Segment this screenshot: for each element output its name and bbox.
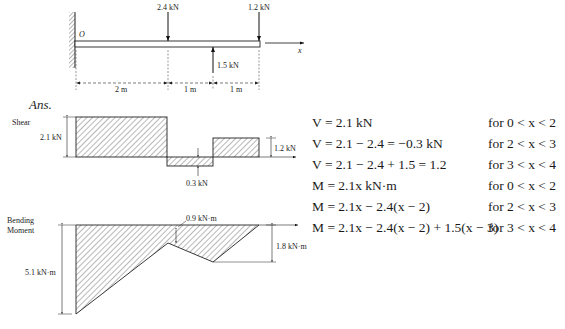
shear-region-0-2: [76, 117, 167, 157]
shear-label-0.3kN: 0.3 kN: [186, 179, 208, 188]
x-axis-label: x: [297, 46, 302, 55]
equation-range: for 2 < x < 3: [488, 199, 556, 215]
origin-label: O: [79, 30, 85, 39]
equation-expression: M = 2.1x − 2.4(x − 2): [312, 199, 488, 215]
equations-list: V = 2.1 kN for 0 < x < 2 V = 2.1 − 2.4 =…: [312, 112, 562, 238]
equation-range: for 0 < x < 2: [488, 115, 556, 131]
equation-range: for 3 < x < 4: [488, 220, 556, 236]
load-label-1.2kN: 1.2 kN: [248, 3, 270, 12]
load-label-1.5kN: 1.5 kN: [217, 61, 239, 70]
equation-expression: V = 2.1 kN: [312, 115, 488, 131]
equation-row: V = 2.1 kN for 0 < x < 2: [312, 112, 562, 133]
equation-row: V = 2.1 − 2.4 + 1.5 = 1.2 for 3 < x < 4: [312, 154, 562, 175]
equation-row: M = 2.1x − 2.4(x − 2) + 1.5(x − 3) for 3…: [312, 217, 562, 238]
fixed-wall-support: [69, 12, 75, 68]
equation-expression: V = 2.1 − 2.4 + 1.5 = 1.2: [312, 157, 488, 173]
beam: [75, 41, 260, 47]
dimension-1m-a: 1 m: [184, 85, 197, 94]
moment-title-line2: Moment: [7, 226, 35, 235]
shear-region-3-4: [213, 138, 259, 157]
equation-expression: M = 2.1x kN·m: [312, 178, 488, 194]
shear-region-2-3: [167, 157, 213, 166]
shear-label-1.2kN: 1.2 kN: [274, 144, 296, 153]
equation-expression: V = 2.1 − 2.4 = −0.3 kN: [312, 136, 488, 152]
shear-title: Shear: [12, 118, 31, 127]
moment-label-5.1kNm: 5.1 kN·m: [25, 268, 56, 277]
moment-label-1.8kNm: 1.8 kN·m: [276, 242, 307, 251]
shear-diagram: Shear 2.1 kN 0.3 kN 1.2 kN: [12, 117, 296, 188]
equation-range: for 2 < x < 3: [488, 136, 556, 152]
shear-label-2.1kN: 2.1 kN: [40, 133, 62, 142]
equation-row: M = 2.1x − 2.4(x − 2) for 2 < x < 3: [312, 196, 562, 217]
moment-title-line1: Bending: [7, 216, 34, 225]
equation-row: V = 2.1 − 2.4 = −0.3 kN for 2 < x < 3: [312, 133, 562, 154]
dimension-2m: 2 m: [115, 85, 128, 94]
moment-diagram: Bending Moment 5.1 kN·m 0.9 kN·m 1.8 kN·…: [7, 214, 307, 314]
moment-region: [76, 225, 259, 314]
equation-row: M = 2.1x kN·m for 0 < x < 2: [312, 175, 562, 196]
answer-label: Ans.: [28, 97, 52, 112]
beam-figure: O 2.4 kN 1.5 kN 1.2 kN x 2 m 1 m 1 m: [69, 3, 304, 94]
equation-range: for 3 < x < 4: [488, 157, 556, 173]
dimension-1m-b: 1 m: [230, 85, 243, 94]
equation-range: for 0 < x < 2: [488, 178, 556, 194]
load-label-2.4kN: 2.4 kN: [157, 3, 179, 12]
equation-expression: M = 2.1x − 2.4(x − 2) + 1.5(x − 3): [312, 220, 488, 236]
moment-label-0.9kNm: 0.9 kN·m: [186, 214, 217, 223]
